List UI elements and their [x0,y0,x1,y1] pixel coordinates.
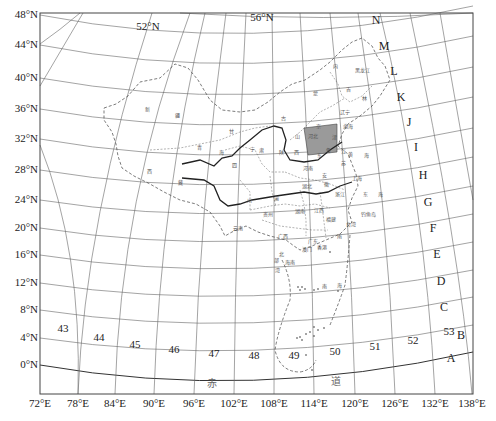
region-label: 浙江 [335,191,345,198]
sheet-column-number: 45 [130,338,142,350]
region-label: 京 [316,123,321,130]
region-label: 上海 [352,175,362,182]
region-label: 陕 [279,149,284,156]
region-label: 河北 [308,133,318,140]
sheet-column-number: 52 [408,334,419,346]
region-label: 江 [341,148,346,155]
china-map-sheet-index: 48°N44°N40°N36°N32°N28°N24°N20°N16°N12°N… [0,0,496,421]
longitude-tick-label: 114°E [300,397,327,409]
equator-label: 赤 [207,378,217,389]
region-label: 鲁 [326,147,331,154]
longitude-tick-label: 78°E [67,397,89,409]
longitude-tick-label: 84°E [104,397,126,409]
region-label: 海 [219,149,224,156]
sheet-row-letter: L [390,64,397,78]
region-label: 西 [147,168,152,175]
longitude-tick-label: 126°E [381,397,409,409]
region-label: 云南 [233,225,243,232]
region-label: 湾 [275,267,280,274]
region-label: 山 [295,133,300,140]
latitude-tick-label: 20°N [15,221,38,233]
region-label: 川 [247,197,252,203]
sheet-row-letter: M [379,39,390,53]
region-label: 钓鱼岛 [361,211,376,218]
region-label: 台湾 [346,221,356,228]
longitude-tick-label: 96°E [183,397,205,409]
sheet-column-number: 47 [209,347,221,359]
sheet-row-letter: J [407,115,412,129]
sheet-row-letter: K [397,90,406,104]
latitude-tick-label: 44°N [15,38,38,50]
latitude-tick-label: 4°N [20,331,38,343]
sheet-column-number: 44 [94,331,106,343]
sheet-column-numbers: 4344454647484950515253 [58,322,456,361]
region-labels: 新疆青海西藏甘肃宁陕山西内蒙古黑龙江吉林辽宁河北京津鲁渤海黄海河南东苏江安徽湖北… [145,63,383,289]
region-label: 东 [363,191,368,197]
region-label: 蒙 [313,90,318,96]
latitude-tick-label: 12°N [15,276,38,288]
latitude-tick-label: 28°N [15,163,38,175]
region-label: 海 [337,282,342,289]
region-label: 安 [322,172,327,179]
region-label: 林 [362,95,367,102]
region-label: 南 [337,233,342,239]
latitude-tick-label: 16°N [15,248,38,260]
region-label: 江西 [314,207,324,214]
parallel-label: 52°N [136,20,159,32]
region-label: 海南 [285,259,295,266]
latitude-grid [40,6,473,351]
region-label: 湖北 [302,183,312,190]
parallel-label: 56°N [250,11,273,23]
region-label: 疆 [175,112,180,119]
sheet-column-number: 51 [370,340,381,352]
longitude-tick-label: 120°E [341,397,369,409]
latitude-tick-label: 8°N [20,303,38,315]
region-label: 甘 [229,128,234,135]
region-label: 海 [364,152,369,159]
region-label: 徽 [324,181,329,188]
latitude-tick-label: 32°N [15,132,38,144]
longitude-tick-label: 132°E [421,397,449,409]
region-label: 新 [145,106,150,113]
region-label: 四 [232,162,237,168]
region-label: 广西 [278,233,288,240]
region-label: 吉 [346,86,351,93]
region-label: 古 [281,115,286,122]
region-label: 河南 [303,165,313,171]
region-label: 香港 [317,244,327,251]
equator-label: 道 [331,375,341,387]
region-label: 贵州 [263,211,273,218]
sheet-column-number: 53 [444,325,456,337]
sheet-row-letter: A [447,351,456,365]
sheet-row-letter: D [437,274,446,288]
sheet-row-letter: B [457,328,465,342]
region-label: 宁 [250,146,255,152]
region-label: 渤海 [343,123,353,130]
latitude-tick-label: 0°N [20,358,38,370]
region-label: 渝 [274,195,279,202]
region-label: 辽宁 [340,109,350,116]
longitude-tick-label: 138°E [458,397,486,409]
sheet-row-letters: NMLKJIHGFEDCBA [372,13,465,365]
sheet-row-letter: F [430,221,437,235]
region-label: 黄 [348,151,353,158]
longitude-tick-label: 102°E [220,397,248,409]
region-label: 青 [197,144,202,151]
latitude-tick-label: 40°N [15,71,38,83]
region-label: 福建 [326,216,336,223]
region-label: 海 [378,191,383,198]
region-label: 北 [279,251,284,258]
sheet-column-number: 48 [249,349,261,361]
sheet-row-letter: H [419,168,428,182]
region-label: 东 [317,152,322,158]
region-label: 湖南 [295,208,305,215]
longitude-tick-label: 90°E [143,397,165,409]
sheet-column-number: 46 [169,343,181,355]
region-label: 部 [274,257,279,264]
longitude-tick-label: 72°E [29,397,51,409]
region-label: 苏 [341,160,346,167]
region-label: 澳门 [302,246,312,253]
region-label: 南 [322,283,327,289]
sheet-row-letter: C [440,300,448,314]
sheet-column-number: 49 [289,349,301,361]
